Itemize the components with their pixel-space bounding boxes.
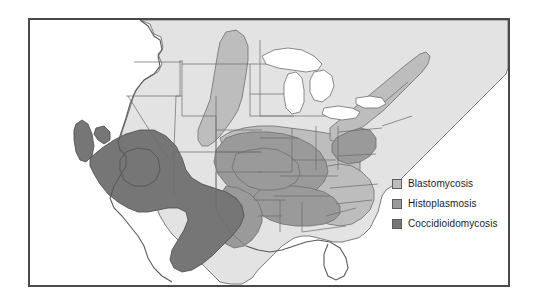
legend-label-coccidioidomycosis: Coccidioidomycosis [408, 219, 498, 229]
legend-swatch-blastomycosis [392, 179, 402, 189]
legend-swatch-histoplasmosis [392, 199, 402, 209]
legend-label-blastomycosis: Blastomycosis [408, 179, 473, 189]
legend-item-blastomycosis: Blastomycosis [392, 178, 498, 190]
figure-container: Blastomycosis Histoplasmosis Coccidioido… [0, 0, 535, 304]
map-legend: Blastomycosis Histoplasmosis Coccidioido… [392, 178, 498, 230]
lake-michigan [284, 72, 304, 114]
us-disease-distribution-map [30, 20, 508, 285]
coccidioidomycosis-region-california-valley [74, 120, 94, 162]
legend-label-histoplasmosis: Histoplasmosis [408, 199, 477, 209]
legend-swatch-coccidioidomycosis [392, 219, 402, 229]
map-frame [28, 18, 510, 287]
legend-item-coccidioidomycosis: Coccidioidomycosis [392, 218, 498, 230]
lake-ontario [356, 96, 386, 108]
coccidioidomycosis-region-coastal-patch [94, 126, 110, 144]
legend-item-histoplasmosis: Histoplasmosis [392, 198, 498, 210]
